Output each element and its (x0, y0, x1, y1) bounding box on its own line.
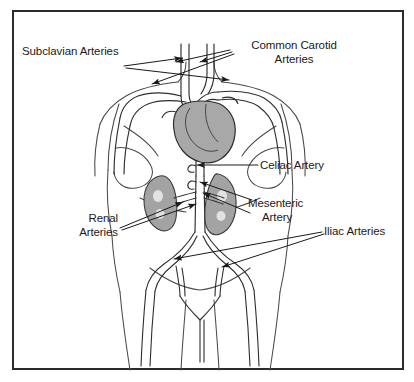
label-renal-line2: Arteries (58, 226, 118, 240)
left-kidney (144, 176, 177, 231)
heart (162, 97, 238, 163)
leader-subclavian-right (124, 58, 182, 66)
leader-iliac-b (222, 234, 324, 267)
label-subclavian-arteries: Subclavian Arteries (22, 45, 119, 59)
label-common-carotid-line2: Arteries (238, 53, 350, 67)
right-kidney (205, 174, 236, 235)
leader-carotid-a (176, 50, 230, 62)
label-mesenteric-line2: Artery (262, 211, 292, 225)
label-renal-line1: Renal (58, 212, 118, 226)
label-common-carotid-line1: Common Carotid (238, 39, 350, 53)
leader-iliac-a (174, 232, 322, 259)
label-iliac-arteries: Iliac Arteries (324, 225, 385, 239)
label-mesenteric-line1: Mesenteric (248, 197, 303, 211)
figure-root: Subclavian Arteries Common Carotid Arter… (0, 0, 414, 382)
iliac-and-femoral-arteries (141, 232, 259, 366)
label-celiac-artery: Celiac Artery (260, 159, 324, 173)
